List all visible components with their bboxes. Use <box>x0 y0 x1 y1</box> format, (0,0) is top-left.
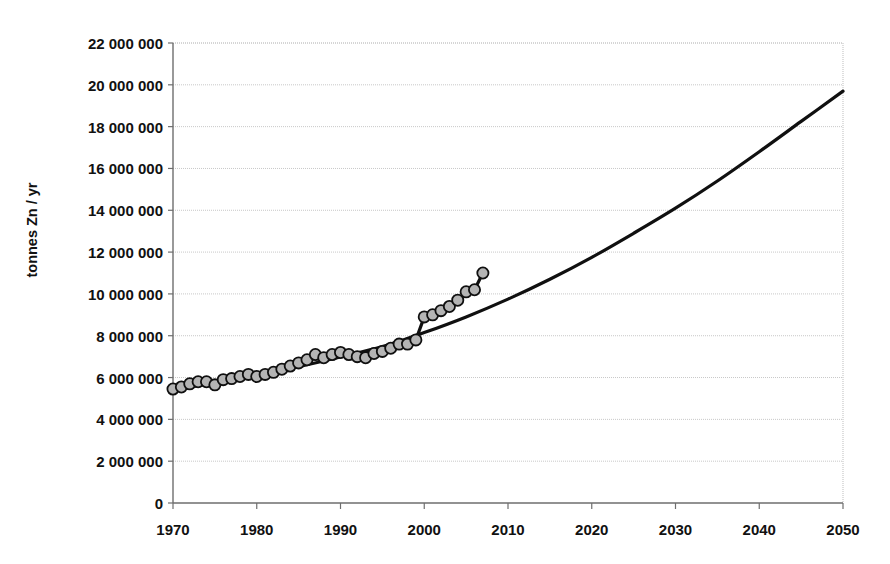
plot-area <box>0 0 890 564</box>
data-point <box>469 284 480 295</box>
data-point <box>477 267 488 278</box>
y-axis-ticks <box>168 43 173 503</box>
plot-background <box>173 43 843 503</box>
data-point <box>410 334 421 345</box>
zinc-production-chart: tonnes Zn / yr 22 000 00020 000 00018 00… <box>0 0 890 564</box>
x-axis-ticks <box>173 503 843 509</box>
